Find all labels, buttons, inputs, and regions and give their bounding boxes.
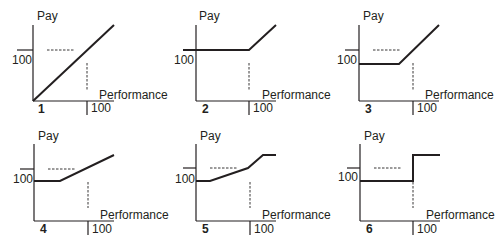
pay-performance-diagram: Pay 100 100 Performance 1 Pay 100 100 Pe…	[0, 0, 500, 245]
x-axis-label: Performance	[262, 88, 331, 102]
y-axis-label: Pay	[363, 9, 384, 23]
panel-number: 4	[40, 222, 47, 236]
x-reference-label: 100	[417, 101, 437, 115]
pay-curve	[34, 155, 114, 181]
panel-4: Pay 100 100 Performance 4	[13, 129, 169, 236]
panel-5: Pay 100 100 Performance 5	[175, 129, 331, 236]
x-reference-label: 100	[91, 101, 111, 115]
x-reference-label: 100	[92, 222, 112, 236]
pay-curve	[183, 25, 276, 50]
panel-number: 5	[202, 222, 209, 236]
panel-3: Pay 100 100 Performance 3	[337, 9, 494, 116]
y-axis-label: Pay	[200, 129, 221, 143]
panel-number: 1	[38, 102, 45, 116]
x-axis-label: Performance	[426, 208, 495, 222]
y-reference-label: 100	[13, 172, 33, 186]
panel-number: 3	[365, 102, 372, 116]
panel-number: 2	[202, 102, 209, 116]
panel-6: Pay 100 100 Performance 6	[338, 129, 495, 236]
y-reference-label: 100	[338, 170, 358, 184]
x-axis-label: Performance	[100, 208, 169, 222]
x-reference-label: 100	[254, 222, 274, 236]
pay-curve	[359, 25, 439, 64]
x-reference-label: 100	[253, 101, 273, 115]
y-reference-label: 100	[12, 53, 32, 67]
y-axis-label: Pay	[199, 9, 220, 23]
panel-1: Pay 100 100 Performance 1	[12, 9, 168, 116]
x-axis-label: Performance	[425, 88, 494, 102]
panel-number: 6	[366, 222, 373, 236]
x-reference-label: 100	[417, 222, 437, 236]
y-reference-label: 100	[175, 172, 195, 186]
panel-2: Pay 100 100 Performance 2	[174, 9, 331, 116]
x-axis-label: Performance	[262, 208, 331, 222]
y-axis-label: Pay	[38, 129, 59, 143]
x-axis-label: Performance	[99, 88, 168, 102]
y-axis-label: Pay	[364, 129, 385, 143]
y-reference-label: 100	[337, 53, 357, 67]
y-reference-label: 100	[174, 53, 194, 67]
y-axis-label: Pay	[37, 9, 58, 23]
